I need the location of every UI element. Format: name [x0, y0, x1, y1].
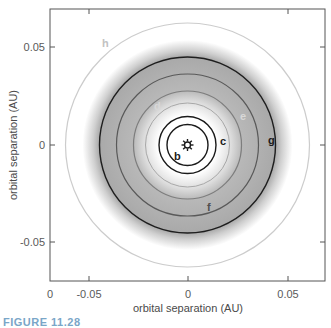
x-tick-0.05: 0.05 [277, 288, 298, 300]
y-tick-0.05: 0.05 [24, 41, 45, 53]
x-axis-title: orbital separation (AU) [133, 302, 243, 314]
figure-caption: FIGURE 11.28 [3, 316, 81, 328]
y-axis-title: orbital separation (AU) [7, 90, 19, 200]
x-tick-0: 0 [185, 288, 191, 300]
label-orbit-d: d [154, 100, 161, 112]
y-tick-0: 0 [39, 139, 45, 151]
label-orbit-g: g [268, 134, 275, 146]
x-tick-neg0.05: -0.05 [76, 288, 101, 300]
label-orbit-b: b [174, 150, 181, 162]
label-orbit-h: h [102, 37, 109, 49]
label-orbit-f: f [207, 201, 211, 213]
x-tick-origin: 0 [47, 288, 53, 300]
label-orbit-c: c [220, 135, 226, 147]
habitable-zone [83, 40, 293, 250]
y-tick-neg0.05: -0.05 [20, 236, 45, 248]
label-orbit-e: e [240, 110, 246, 122]
